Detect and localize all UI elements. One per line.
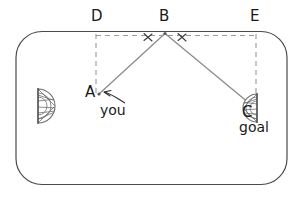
diagram-canvas: D B E A C you goal — [0, 0, 303, 197]
label-point-b: B — [159, 9, 169, 24]
annotation-goal: goal — [239, 120, 269, 134]
label-point-a: A — [85, 85, 95, 100]
bank-shot-diagram — [0, 0, 303, 197]
label-point-e: E — [250, 9, 259, 24]
annotation-you: you — [100, 103, 126, 117]
label-point-d: D — [91, 9, 103, 24]
point-dot-a — [97, 92, 100, 95]
point-dot-b — [163, 32, 166, 35]
label-point-c: C — [242, 105, 252, 120]
